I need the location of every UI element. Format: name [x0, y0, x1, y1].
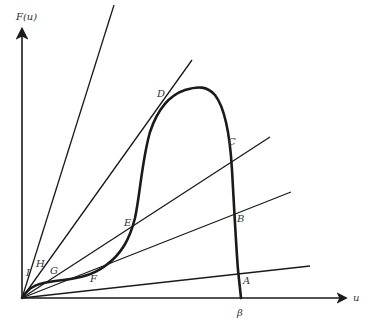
point-label-E: E	[123, 217, 132, 228]
point-label-G: G	[50, 265, 58, 276]
ray-B	[22, 192, 291, 298]
ray-steep	[22, 5, 114, 298]
point-label-B: B	[236, 213, 244, 224]
x-axis-label: u	[353, 292, 359, 303]
point-label-H: H	[35, 258, 45, 269]
beta-tick-label: β	[236, 307, 243, 318]
point-label-F: F	[89, 273, 98, 284]
point-label-C: C	[228, 136, 236, 147]
point-label-A: A	[242, 275, 250, 286]
ray-A	[22, 266, 310, 298]
point-label-D: D	[156, 88, 165, 99]
ray-C	[22, 137, 270, 298]
diagram: F(u) u β A B C D E F G H I	[0, 0, 379, 325]
ray-D	[22, 60, 192, 298]
y-axis-label: F(u)	[15, 11, 37, 22]
rays	[22, 5, 310, 298]
